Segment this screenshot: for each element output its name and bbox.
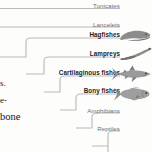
hagfish-illustration xyxy=(119,28,152,44)
cladogram-figure: Tunicates Lancelets Hagfishes Lampreys C… xyxy=(0,0,152,152)
taxon-label-bony-fishes: Bony fishes xyxy=(20,88,120,94)
taxon-label-tunicates: Tunicates xyxy=(20,3,120,9)
shark-illustration xyxy=(111,64,152,84)
bony-fish-illustration xyxy=(113,84,151,104)
taxon-label-lancelets: Lancelets xyxy=(20,22,120,28)
body-text-line-3: bone xyxy=(0,112,20,123)
taxon-label-reptiles: Reptiles xyxy=(20,126,120,132)
taxon-label-amphibians: Amphibians xyxy=(20,108,120,114)
branch-reptiles xyxy=(92,131,120,146)
body-text-line-1: s. xyxy=(0,79,6,88)
taxon-label-hagfishes: Hagfishes xyxy=(20,32,120,38)
taxon-label-cartilaginous-fishes: Cartilaginous fishes xyxy=(20,70,120,76)
taxon-label-lampreys: Lampreys xyxy=(20,51,120,57)
body-text-line-2: e- xyxy=(0,96,7,105)
lamprey-illustration xyxy=(119,45,152,63)
